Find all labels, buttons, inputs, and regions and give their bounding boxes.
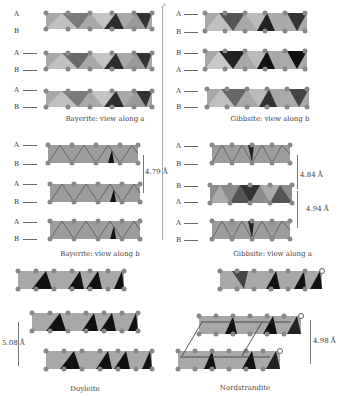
octahedral-layer [48, 142, 140, 166]
octahedral-layer [50, 181, 142, 205]
layer-tick [184, 146, 198, 147]
layer-tick [23, 184, 37, 185]
layer-label: B [176, 28, 181, 36]
octahedral-layer [46, 88, 154, 110]
layer-tick [23, 107, 37, 108]
layer-label: B [14, 198, 19, 206]
octahedral-layer [205, 10, 309, 34]
octahedral-layer [32, 310, 140, 334]
panel-caption: Nordstrandite [200, 384, 290, 392]
layer-tick [23, 145, 37, 146]
layer-tick [184, 14, 198, 15]
distance-arrow [297, 155, 298, 189]
layer-label: A [14, 218, 19, 226]
interlayer-distance: 4.98 Å [313, 337, 336, 345]
octahedral-layer [46, 50, 154, 72]
layer-tick [184, 202, 198, 203]
layer-tick [23, 222, 37, 223]
distance-arrow [143, 155, 144, 193]
layer-tick [23, 70, 37, 71]
layer-label: A [14, 49, 19, 57]
layer-label: A [176, 142, 181, 150]
z-axis-label: z [163, 1, 166, 7]
layer-tick [184, 186, 198, 187]
layer-tick [184, 223, 198, 224]
layer-label: B [14, 103, 19, 111]
layer-tick [23, 164, 37, 165]
layer-label: A [14, 86, 19, 94]
octahedral-layer [220, 268, 324, 292]
layer-label: A [14, 10, 19, 18]
layer-tick [184, 240, 198, 241]
interlayer-distance: 4.79 Å [145, 168, 168, 176]
layer-tick [23, 239, 37, 240]
layer-label: B [14, 27, 19, 35]
interlayer-distance: 4.94 Å [306, 205, 329, 213]
layer-tick [184, 164, 198, 165]
layer-tick [184, 91, 198, 92]
layer-label: A [176, 66, 181, 74]
panel-caption: Bayerite: view along a [60, 115, 150, 123]
unit-cell-outline [180, 320, 270, 360]
panel-caption: Doyleite [40, 385, 130, 393]
z-axis-line [162, 6, 163, 240]
panel-caption: Bayerite: view along b [55, 250, 145, 258]
layer-label: B [176, 103, 181, 111]
layer-tick [184, 53, 198, 54]
layer-tick [23, 202, 37, 203]
layer-label: A [14, 180, 19, 188]
octahedral-layer [212, 218, 292, 242]
panel-caption: Gibbsite: view along a [225, 250, 320, 258]
layer-label: B [14, 160, 19, 168]
layer-tick [184, 32, 198, 33]
octahedral-layer [212, 142, 292, 166]
octahedral-layer [50, 218, 142, 242]
layer-label: B [176, 182, 181, 190]
layer-label: B [176, 49, 181, 57]
interlayer-distance: 4.84 Å [300, 171, 323, 179]
octahedral-layer [46, 348, 154, 372]
layer-label: B [14, 66, 19, 74]
octahedral-layer [210, 182, 294, 206]
distance-arrow [310, 320, 311, 364]
layer-label: B [14, 235, 19, 243]
octahedral-layer [205, 48, 309, 72]
layer-label: B [176, 160, 181, 168]
layer-label: A [176, 87, 181, 95]
octahedral-layer [18, 268, 126, 292]
layer-tick [184, 107, 198, 108]
panel-caption: Gibbsite: view along b [225, 115, 315, 123]
layer-tick [23, 90, 37, 91]
layer-label: A [176, 10, 181, 18]
layer-label: A [176, 198, 181, 206]
layer-tick [184, 70, 198, 71]
layer-label: B [176, 236, 181, 244]
layer-tick [23, 53, 37, 54]
distance-arrow [297, 191, 298, 228]
octahedral-layer [46, 10, 154, 32]
octahedral-layer [207, 86, 311, 110]
interlayer-distance: 5.08 Å [2, 339, 25, 347]
layer-label: A [14, 141, 19, 149]
layer-label: A [176, 219, 181, 227]
